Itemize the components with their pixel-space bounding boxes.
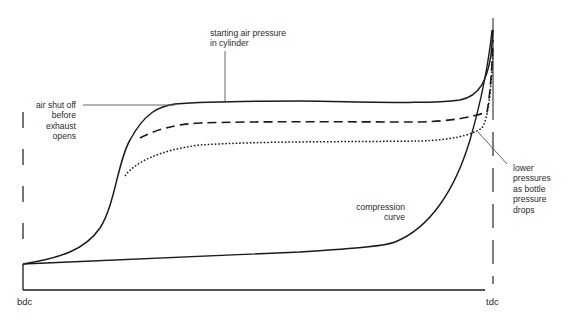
tdc-label: tdc [486,296,499,307]
starting-air-curve [23,30,493,264]
lower-pressures-label: lower pressures as bottle pressure drops [513,163,551,215]
air-shut-off-label: air shut off before exhaust opens [28,100,76,142]
lower-pressure-dashed-curve [140,40,493,138]
bdc-label: bdc [17,296,32,307]
compression-curve-label: compression curve [345,202,405,223]
starting-air-pressure-label: starting air pressure in cylinder [210,28,286,49]
lower-pressure-dotted-curve [125,50,493,176]
compression-curve [23,30,492,264]
